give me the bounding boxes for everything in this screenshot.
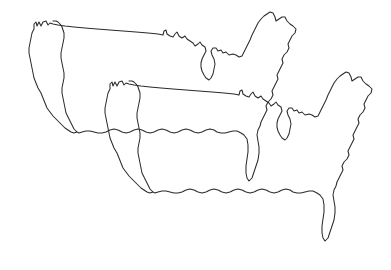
overlapping-us-maps-svg	[0, 0, 391, 270]
canvas-background	[0, 0, 391, 270]
map-figure	[0, 0, 391, 270]
